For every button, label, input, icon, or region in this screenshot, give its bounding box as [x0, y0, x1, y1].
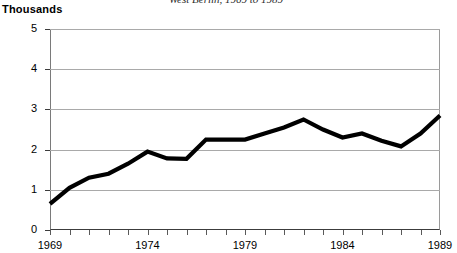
x-tick-label: 1969	[30, 240, 70, 251]
x-tick-mark	[128, 230, 129, 235]
x-tick-mark	[70, 230, 71, 235]
y-tick-label: 1	[7, 184, 37, 195]
x-tick-mark	[167, 230, 168, 235]
series-line-west-berlin	[50, 29, 440, 230]
x-tick-mark	[226, 230, 227, 235]
x-tick-mark	[187, 230, 188, 235]
plot-area	[50, 29, 440, 230]
x-tick-label: 1989	[420, 240, 457, 251]
x-tick-mark	[421, 230, 422, 235]
x-tick-mark	[206, 230, 207, 235]
x-tick-mark	[245, 230, 246, 235]
x-tick-mark	[284, 230, 285, 235]
x-tick-mark	[109, 230, 110, 235]
chart-title: West Berlin, 1969 to 1989	[0, 0, 452, 6]
y-tick-label: 3	[7, 103, 37, 114]
y-tick-label: 0	[7, 224, 37, 235]
y-tick-label: 2	[7, 144, 37, 155]
x-tick-mark	[362, 230, 363, 235]
x-tick-label: 1974	[128, 240, 168, 251]
x-tick-mark	[382, 230, 383, 235]
y-axis-unit-label: Thousands	[2, 3, 62, 16]
x-tick-mark	[50, 230, 51, 235]
x-tick-mark	[343, 230, 344, 235]
x-tick-mark	[148, 230, 149, 235]
y-tick-label: 4	[7, 63, 37, 74]
y-tick-label: 5	[7, 23, 37, 34]
y-tick-mark	[45, 230, 50, 231]
x-tick-mark	[265, 230, 266, 235]
x-tick-mark	[401, 230, 402, 235]
x-tick-mark	[323, 230, 324, 235]
x-tick-label: 1979	[225, 240, 265, 251]
x-tick-mark	[304, 230, 305, 235]
x-tick-label: 1984	[323, 240, 363, 251]
x-tick-mark	[89, 230, 90, 235]
x-tick-mark	[440, 230, 441, 235]
